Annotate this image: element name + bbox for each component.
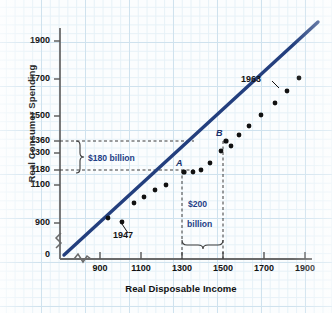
horizontal-bracket bbox=[182, 240, 223, 249]
data-point bbox=[219, 149, 224, 154]
data-point bbox=[285, 89, 290, 94]
data-point bbox=[132, 201, 137, 206]
x-tick-1900: 1900 bbox=[285, 263, 325, 273]
horizontal-change-label-line1: $200 bbox=[188, 199, 207, 210]
data-point bbox=[273, 101, 278, 106]
x-tick-1100: 1100 bbox=[121, 263, 161, 273]
data-point bbox=[223, 138, 228, 143]
x-tick-1500: 1500 bbox=[203, 263, 243, 273]
data-point bbox=[164, 183, 169, 188]
data-point bbox=[181, 169, 186, 174]
data-point bbox=[229, 144, 234, 149]
vertical-bracket bbox=[76, 141, 84, 173]
year-1947-label: 1947 bbox=[113, 230, 133, 240]
data-point bbox=[106, 216, 111, 221]
vertical-change-label: $180 billion bbox=[88, 153, 135, 164]
data-point bbox=[199, 168, 204, 173]
y-axis-title: Real Consumer Spending bbox=[26, 49, 37, 199]
data-point bbox=[247, 124, 252, 129]
data-point bbox=[208, 161, 213, 166]
year-1963-label: 1963 bbox=[241, 74, 261, 84]
annotation-leader-lines bbox=[120, 81, 279, 233]
data-point bbox=[237, 133, 242, 138]
y-tick-900: 900 bbox=[6, 217, 50, 227]
data-point bbox=[259, 113, 264, 118]
chart-root: 1900 1700 1500 1360 1300 1180 1100 900 0… bbox=[0, 0, 332, 313]
y-tick-1900: 1900 bbox=[6, 35, 50, 45]
x-axis-ticks bbox=[100, 252, 305, 259]
data-point bbox=[153, 188, 158, 193]
x-tick-1700: 1700 bbox=[244, 263, 284, 273]
horizontal-change-label-line2: billion bbox=[187, 219, 212, 230]
data-point bbox=[297, 76, 302, 81]
data-point bbox=[142, 195, 147, 200]
x-tick-1300: 1300 bbox=[162, 263, 202, 273]
x-tick-900: 900 bbox=[80, 263, 120, 273]
data-point bbox=[191, 170, 196, 175]
point-a-label: A bbox=[176, 158, 183, 168]
point-b-label: B bbox=[216, 128, 223, 138]
x-axis-title: Real Disposable Income bbox=[96, 283, 266, 294]
y-tick-0: 0 bbox=[6, 249, 50, 259]
